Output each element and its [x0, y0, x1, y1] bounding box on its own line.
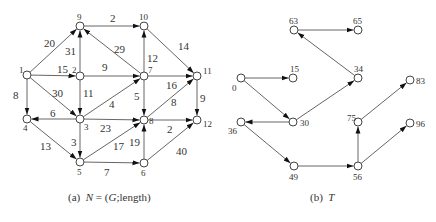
- tree-node-63: [290, 26, 298, 34]
- tree-node-36: [237, 118, 245, 126]
- network-edge-weight-1-2: 15: [57, 63, 69, 75]
- tree-edge-56-96: [361, 126, 406, 164]
- network-edge-weight-7-11: 16: [166, 79, 178, 91]
- caption-network-N: N: [86, 191, 93, 203]
- network-edge-weight-3-8: 23: [100, 122, 112, 134]
- network-node-label-11: 11: [203, 66, 212, 76]
- network-node-label-9: 9: [77, 12, 82, 22]
- tree-node-0: [237, 74, 245, 82]
- network-edge-weight-3-5: 3: [71, 136, 77, 148]
- network-edge-weight-10-11: 14: [178, 40, 190, 52]
- tree-node-label-30: 30: [300, 118, 310, 128]
- network-edge-weight-9-10: 2: [110, 12, 116, 24]
- tree-node-83: [406, 76, 414, 84]
- network-edge-weight-8-11: 8: [171, 96, 177, 108]
- tree-node-label-63: 63: [289, 16, 299, 26]
- network-node-label-7: 7: [148, 65, 153, 75]
- tree-node-label-15: 15: [290, 64, 300, 74]
- network-node-6: [140, 159, 148, 167]
- network-edge-7-9: [84, 29, 141, 74]
- graph-canvas: 201530831911229121416546238923131719740 …: [0, 0, 436, 222]
- tree-node-56: [354, 162, 362, 170]
- network-edge-weight-8-12: 2: [167, 123, 173, 135]
- network-node-label-8: 8: [149, 116, 154, 126]
- network-edge-weight-2-9: 31: [65, 45, 76, 57]
- network-edge-weight-3-4: 6: [50, 107, 56, 119]
- network-edge-weight-2-7: 9: [102, 61, 108, 73]
- network-node-2: [76, 72, 84, 80]
- tree-node-label-83: 83: [416, 76, 426, 86]
- tree-node-label-34: 34: [354, 64, 364, 74]
- network-node-label-12: 12: [203, 119, 212, 129]
- network-node-4: [23, 115, 31, 123]
- network-edge-weight-6-12: 40: [176, 145, 188, 157]
- tree-edge-75-83: [361, 83, 406, 120]
- network-edge-weight-1-9: 20: [44, 37, 56, 49]
- network-edge-weight-5-6: 7: [104, 166, 110, 178]
- caption-tree-T: T: [328, 191, 334, 203]
- caption-network: (a) N = (G;length): [68, 191, 151, 203]
- network-node-label-10: 10: [139, 12, 149, 22]
- network-node-label-4: 4: [23, 123, 28, 133]
- figure: 201530831911229121416546238923131719740 …: [0, 0, 436, 222]
- tree-node-label-65: 65: [353, 16, 363, 26]
- network-edge-weight-7-8: 5: [134, 90, 140, 102]
- tree-node-label-49: 49: [289, 172, 299, 182]
- network-edge-weight-7-9: 29: [114, 43, 126, 55]
- network-edge-weight-5-8: 17: [113, 140, 125, 152]
- tree-node-label-75: 75: [347, 113, 357, 123]
- tree-node-49: [290, 162, 298, 170]
- network-node-10: [140, 22, 148, 30]
- network-node-label-5: 5: [77, 167, 82, 177]
- tree-node-label-36: 36: [228, 126, 238, 136]
- network-edge-1-2: [31, 75, 76, 76]
- tree-edge-34-63: [298, 33, 355, 76]
- tree-node-30: [289, 118, 297, 126]
- caption-tree-prefix: (b): [310, 191, 323, 203]
- network-node-1: [23, 71, 31, 79]
- caption-network-prefix: (a): [68, 191, 80, 203]
- tree-node-65: [354, 26, 362, 34]
- tree-edge-0-30: [244, 81, 290, 120]
- network-node-7: [140, 72, 148, 80]
- network-node-3: [76, 115, 84, 123]
- caption-tree: (b) T: [310, 191, 334, 203]
- network-node-8: [140, 116, 148, 124]
- tree-node-34: [354, 74, 362, 82]
- network-edge-weight-7-10: 12: [147, 52, 158, 64]
- network-edge-weight-4-5: 13: [40, 140, 52, 152]
- tree-edges: [244, 30, 406, 166]
- tree-node-label-96: 96: [416, 119, 426, 129]
- network-node-label-1: 1: [19, 65, 24, 75]
- network-edge-3-8: [84, 119, 140, 120]
- network-edge-weight-11-12: 9: [200, 92, 206, 104]
- tree-node-96: [406, 119, 414, 127]
- network-edge-weight-1-3: 30: [52, 87, 64, 99]
- network-node-5: [76, 158, 84, 166]
- network-node-label-2: 2: [72, 65, 77, 75]
- network-edge-weight-2-3: 11: [83, 87, 94, 99]
- network-edge-weights: 201530831911229121416546238923131719740: [13, 12, 206, 178]
- tree-node-label-0: 0: [232, 83, 237, 93]
- network-node-label-6: 6: [141, 168, 146, 178]
- tree-node-label-56: 56: [353, 172, 363, 182]
- network-edge-weight-3-7: 4: [109, 98, 115, 110]
- network-node-11: [193, 72, 201, 80]
- network-node-9: [76, 22, 84, 30]
- network-edge-weight-6-8: 19: [129, 136, 141, 148]
- network-edge-4-5: [30, 122, 76, 160]
- network-node-12: [193, 116, 201, 124]
- caption-network-eq: = (: [93, 191, 108, 203]
- network-edge-weight-1-4: 8: [13, 89, 19, 101]
- network-edge-5-6: [84, 162, 140, 163]
- tree-edge-36-49: [244, 125, 290, 164]
- caption-network-rest: ;length): [116, 191, 150, 203]
- tree-node-15: [289, 74, 297, 82]
- tree-edge-30-34: [296, 81, 354, 120]
- network-node-label-3: 3: [84, 122, 89, 132]
